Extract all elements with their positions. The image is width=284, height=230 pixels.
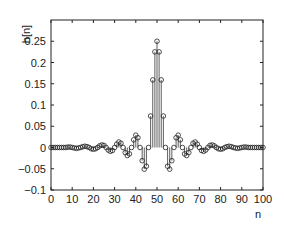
y-tick-label: 0.15 xyxy=(25,78,46,90)
y-axis-label: h[n] xyxy=(20,25,32,43)
x-tick-label: 0 xyxy=(48,193,54,205)
stem-marker xyxy=(172,145,177,150)
stem-plot: 0102030405060708090100 −0.1−0.0500.050.1… xyxy=(0,0,284,230)
x-tick-label: 70 xyxy=(193,193,205,205)
x-tick-label: 30 xyxy=(108,193,120,205)
x-tick-label: 20 xyxy=(87,193,99,205)
y-tick-label: 0.1 xyxy=(31,99,46,111)
y-axis: −0.1−0.0500.050.10.150.20.25 xyxy=(18,35,263,196)
y-tick-label: 0 xyxy=(40,142,46,154)
x-tick-label: 10 xyxy=(66,193,78,205)
stem-marker xyxy=(146,145,151,150)
x-tick-label: 90 xyxy=(236,193,248,205)
y-tick-label: 0.2 xyxy=(31,57,46,69)
x-axis: 0102030405060708090100 xyxy=(48,20,272,205)
y-tick-label: 0.05 xyxy=(25,120,46,132)
x-tick-label: 60 xyxy=(172,193,184,205)
stem-series xyxy=(49,39,266,172)
stem-marker xyxy=(138,145,143,150)
x-tick-label: 40 xyxy=(130,193,142,205)
chart-canvas: 0102030405060708090100 −0.1−0.0500.050.1… xyxy=(0,0,284,230)
x-tick-label: 80 xyxy=(214,193,226,205)
stem-marker xyxy=(163,145,168,150)
stem-marker xyxy=(129,145,134,150)
y-tick-label: −0.05 xyxy=(18,163,46,175)
stem-marker xyxy=(121,145,126,150)
x-tick-label: 100 xyxy=(254,193,272,205)
x-tick-label: 50 xyxy=(151,193,163,205)
stem-marker xyxy=(180,145,185,150)
x-axis-label: n xyxy=(255,208,261,220)
y-tick-label: −0.1 xyxy=(24,184,46,196)
